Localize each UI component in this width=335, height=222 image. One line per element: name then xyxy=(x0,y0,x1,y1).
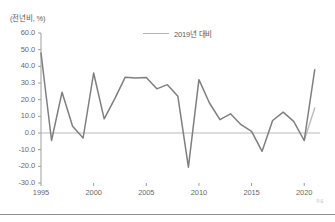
chart-figure: (전년비, %) 2019년 대비 60.050.040.030.320.010… xyxy=(0,0,335,222)
series-line-2019-comparison xyxy=(304,108,315,141)
series-line-main xyxy=(41,53,315,167)
corner-mark: 자료 xyxy=(316,198,324,204)
axis-marks xyxy=(38,33,304,186)
bottom-divider xyxy=(0,214,335,215)
plot-area xyxy=(0,0,335,222)
